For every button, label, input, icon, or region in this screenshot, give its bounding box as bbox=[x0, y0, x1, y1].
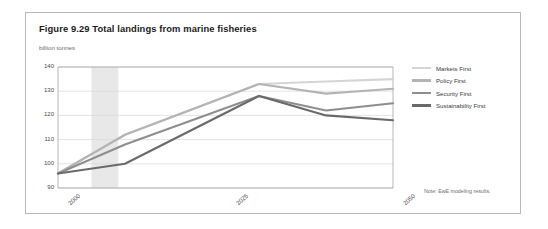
legend-item-label: Markets First bbox=[436, 65, 471, 72]
legend-item-label: Security First bbox=[436, 90, 472, 97]
legend-item[interactable]: Policy First bbox=[412, 75, 516, 87]
y-axis-tick-label: 120 bbox=[36, 111, 54, 117]
legend-color-swatch bbox=[412, 104, 431, 106]
chart-legend: Markets FirstPolicy FirstSecurity FirstS… bbox=[412, 62, 516, 112]
y-axis-tick-label: 130 bbox=[36, 87, 54, 93]
projection-shaded-band bbox=[92, 67, 119, 188]
legend-color-swatch bbox=[412, 67, 431, 69]
legend-color-swatch bbox=[412, 79, 431, 81]
line-chart-svg bbox=[26, 13, 522, 215]
legend-color-swatch bbox=[412, 92, 431, 94]
legend-item[interactable]: Security First bbox=[412, 87, 516, 99]
legend-item-label: Policy First bbox=[436, 77, 466, 84]
legend-item-label: Sustainability First bbox=[436, 102, 485, 109]
plot-area: 90100110120130140 200020252050 bbox=[26, 13, 522, 215]
figure-container: Figure 9.29 Total landings from marine f… bbox=[25, 12, 521, 214]
legend-item[interactable]: Markets First bbox=[412, 62, 516, 74]
source-note: Note: EwE modeling results. bbox=[424, 188, 491, 194]
y-axis-tick-label: 110 bbox=[36, 136, 54, 142]
y-axis-tick-label: 140 bbox=[36, 63, 54, 69]
y-axis-tick-label: 100 bbox=[36, 160, 54, 166]
legend-item[interactable]: Sustainability First bbox=[412, 100, 516, 112]
y-axis-tick-label: 90 bbox=[36, 184, 54, 190]
